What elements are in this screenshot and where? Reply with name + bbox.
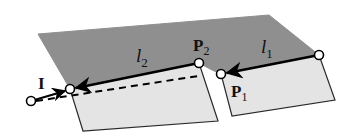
point-l2-end <box>66 85 75 94</box>
point-P1 <box>217 70 226 79</box>
diagram-canvas: l2 l1 P2 P1 I <box>0 0 352 140</box>
point-l1-start <box>315 51 324 60</box>
label-I: I <box>38 74 45 93</box>
point-P2 <box>195 59 204 68</box>
point-I-tail <box>27 97 36 106</box>
